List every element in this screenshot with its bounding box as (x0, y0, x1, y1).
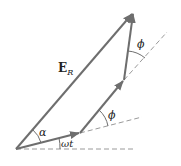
phasor-diagram: ER α ωt ϕ ϕ (0, 0, 181, 166)
phi-arc-top (128, 51, 145, 58)
phi-label-top: ϕ (137, 38, 145, 51)
phasor-vector-3 (124, 14, 133, 80)
omega-t-label: ωt (61, 138, 74, 149)
resultant-label: ER (58, 61, 73, 77)
phasor-diagram-canvas: ER α ωt ϕ ϕ (0, 0, 181, 166)
omega-t-arc (59, 138, 60, 149)
resultant-vector (16, 14, 132, 149)
phasor-vector-2 (80, 81, 123, 133)
phi-label-mid: ϕ (108, 109, 116, 122)
alpha-label: α (39, 126, 47, 139)
phi-arc-mid (99, 110, 108, 126)
